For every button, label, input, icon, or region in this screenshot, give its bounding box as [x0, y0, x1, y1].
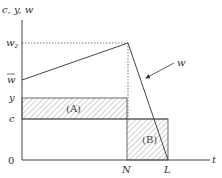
- region-a-label: (A): [66, 103, 81, 114]
- lifecycle-diagram: c, y, w t 0 wz w y c N L w (A) (B): [0, 0, 222, 178]
- curve-arrow: [146, 63, 174, 78]
- curve-label: w: [177, 57, 186, 68]
- w-bar-label: w: [7, 74, 16, 85]
- region-b-label: (B): [142, 134, 157, 145]
- x-axis-label: t: [212, 154, 217, 165]
- origin-label: 0: [8, 155, 14, 166]
- y-axis-label: c, y, w: [2, 4, 34, 15]
- wz-label: wz: [6, 37, 19, 50]
- c-label: c: [9, 113, 15, 124]
- n-label: N: [121, 164, 132, 175]
- y-label: y: [8, 92, 15, 103]
- l-label: L: [163, 164, 171, 175]
